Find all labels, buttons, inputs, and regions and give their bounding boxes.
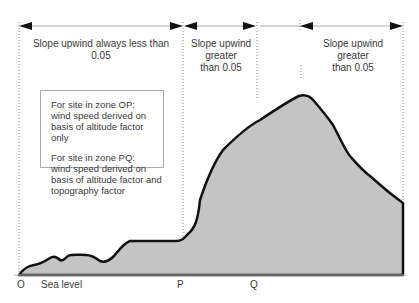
zone-pq-label-line: greater xyxy=(186,50,256,62)
info-op: For site in zone OP: wind speed derived … xyxy=(51,99,163,143)
info-op-line: For site in zone OP: xyxy=(51,99,135,110)
info-pq-line: For site in zone PQ: xyxy=(51,152,135,163)
sea-level-label: Sea level xyxy=(41,279,82,291)
zone-pq-label-line: Slope upwind xyxy=(186,38,256,50)
zone-arrow-pq xyxy=(184,22,256,30)
info-pq-line: topography factor xyxy=(51,185,125,196)
zone-pq-label: Slope upwind greater than 0.05 xyxy=(186,38,256,74)
zone-right-label-line: greater xyxy=(305,50,401,62)
zone-right-label-line: than 0.05 xyxy=(305,62,401,74)
info-op-line: basis of altitude factor only xyxy=(51,121,143,143)
info-op-line: wind speed derived on xyxy=(51,110,146,121)
point-q-label: Q xyxy=(250,279,258,291)
zone-right-label: Slope upwind greater than 0.05 xyxy=(305,38,401,74)
zone-pq-label-line: than 0.05 xyxy=(186,62,256,74)
zone-right-label-line: Slope upwind xyxy=(305,38,401,50)
info-pq: For site in zone PQ: wind speed derived … xyxy=(51,152,163,196)
info-pq-line: wind speed derived on xyxy=(51,163,146,174)
zone-arrow-right xyxy=(260,20,403,32)
point-p-label: P xyxy=(177,279,184,291)
zone-op-label: Slope upwind always less than 0.05 xyxy=(26,38,176,62)
zone-arrow-op xyxy=(19,22,183,30)
info-box: For site in zone OP: wind speed derived … xyxy=(40,90,164,168)
point-o-label: O xyxy=(17,279,25,291)
info-pq-line: basis of altitude factor and xyxy=(51,174,162,185)
